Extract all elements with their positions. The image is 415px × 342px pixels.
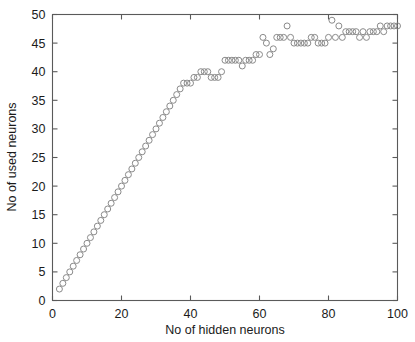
data-point <box>101 212 107 218</box>
x-tick-label: 100 <box>387 307 408 321</box>
data-point <box>74 257 80 263</box>
data-point <box>239 63 245 69</box>
data-point <box>56 286 62 292</box>
data-point <box>177 86 183 92</box>
data-point <box>377 23 383 29</box>
data-point <box>122 177 128 183</box>
x-tick-label: 60 <box>253 307 267 321</box>
data-point <box>336 23 342 29</box>
data-point <box>87 235 93 241</box>
data-point <box>129 166 135 172</box>
data-point <box>219 69 225 75</box>
x-axis-tick-labels: 020406080100 <box>49 307 408 321</box>
scatter-data-points <box>56 17 400 292</box>
x-tick-label: 0 <box>49 307 56 321</box>
data-point <box>146 137 152 143</box>
data-point <box>288 34 294 40</box>
x-tick-label: 40 <box>184 307 198 321</box>
data-point <box>329 17 335 23</box>
y-tick-label: 35 <box>32 94 46 108</box>
data-point <box>125 172 131 178</box>
y-tick-label: 0 <box>39 294 46 308</box>
scatter-chart-figure: 020406080100 05101520253035404550 No of … <box>0 0 415 342</box>
data-point <box>156 120 162 126</box>
data-point <box>381 29 387 35</box>
y-tick-label: 50 <box>32 8 46 22</box>
data-point <box>139 149 145 155</box>
data-point <box>163 109 169 115</box>
data-point <box>112 195 118 201</box>
data-point <box>60 280 66 286</box>
data-point <box>77 252 83 258</box>
data-point <box>153 126 159 132</box>
data-point <box>270 46 276 52</box>
data-point <box>267 52 273 58</box>
y-tick-label: 20 <box>32 180 46 194</box>
y-axis-title: No of used neurons <box>5 102 19 211</box>
y-tick-label: 10 <box>32 237 46 251</box>
data-point <box>360 29 366 35</box>
data-point <box>81 246 87 252</box>
data-point <box>105 206 111 212</box>
y-tick-label: 25 <box>32 151 46 165</box>
y-axis-tick-labels: 05101520253035404550 <box>32 8 46 308</box>
data-point <box>167 103 173 109</box>
data-point <box>339 34 345 40</box>
data-point <box>150 132 156 138</box>
data-point <box>363 34 369 40</box>
y-tick-label: 40 <box>32 65 46 79</box>
y-tick-label: 15 <box>32 208 46 222</box>
data-point <box>84 240 90 246</box>
data-point <box>94 223 100 229</box>
data-point <box>98 217 104 223</box>
y-tick-label: 5 <box>39 265 46 279</box>
data-point <box>63 275 69 281</box>
data-point <box>136 155 142 161</box>
x-tick-label: 80 <box>322 307 336 321</box>
data-point <box>263 40 269 46</box>
data-point <box>67 269 73 275</box>
data-point <box>170 97 176 103</box>
data-point <box>108 200 114 206</box>
data-point <box>132 160 138 166</box>
chart-canvas: 020406080100 05101520253035404550 No of … <box>0 0 415 342</box>
data-point <box>332 34 338 40</box>
y-tick-label: 30 <box>32 122 46 136</box>
y-tick-label: 45 <box>32 37 46 51</box>
data-point <box>119 183 125 189</box>
data-point <box>174 92 180 98</box>
data-point <box>70 263 76 269</box>
data-point <box>91 229 97 235</box>
data-point <box>160 114 166 120</box>
data-point <box>143 143 149 149</box>
data-point <box>115 189 121 195</box>
data-point <box>284 23 290 29</box>
data-point <box>326 34 332 40</box>
x-axis-title: No of hidden neurons <box>165 323 285 337</box>
data-point <box>260 34 266 40</box>
data-point <box>357 34 363 40</box>
x-tick-label: 20 <box>115 307 129 321</box>
